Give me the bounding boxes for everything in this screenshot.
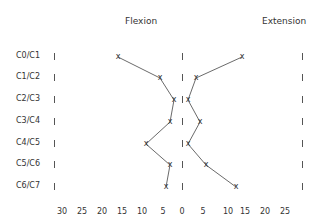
flexion-data-point-x-icon: x	[116, 53, 121, 61]
extension-data-point-x-icon: x	[186, 96, 191, 104]
flexion-line-segment	[146, 122, 170, 144]
flexion-line-segment	[118, 57, 160, 78]
extension-data-point-x-icon: x	[204, 161, 209, 169]
extension-line-segment	[206, 165, 236, 187]
extension-line-segment	[196, 57, 242, 78]
flexion-data-point-x-icon: x	[144, 140, 149, 148]
flexion-data-point-x-icon: x	[168, 118, 173, 126]
flexion-data-point-x-icon: x	[164, 183, 169, 191]
extension-data-point-x-icon: x	[234, 183, 239, 191]
plot-area	[0, 0, 321, 224]
extension-data-point-x-icon: x	[186, 140, 191, 148]
extension-data-point-x-icon: x	[240, 53, 245, 61]
extension-data-point-x-icon: x	[198, 118, 203, 126]
flexion-line-segment	[146, 144, 170, 165]
extension-data-point-x-icon: x	[194, 74, 199, 82]
flexion-data-point-x-icon: x	[158, 74, 163, 82]
flexion-data-point-x-icon: x	[172, 96, 177, 104]
flexion-data-point-x-icon: x	[168, 161, 173, 169]
